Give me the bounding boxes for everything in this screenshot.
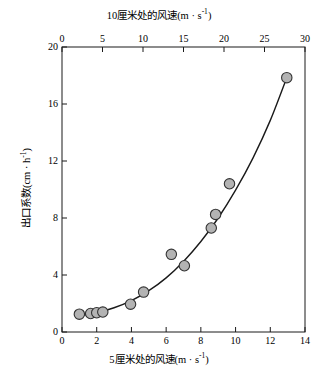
data-point-11 <box>282 72 292 82</box>
data-point-9 <box>210 209 220 219</box>
bottom-axis-tick-labels-14: 14 <box>292 335 318 346</box>
y-axis-tick-labels-16: 16 <box>36 98 58 109</box>
data-point-8 <box>206 223 216 233</box>
plot-frame <box>62 47 305 332</box>
data-point-5 <box>138 287 148 297</box>
top-axis-tick-labels-5: 5 <box>90 33 116 44</box>
scatter-chart: 10厘米处的风速(m · s-1) 5厘米处的风速(m · s-1) 出口系数(… <box>0 0 318 370</box>
data-point-6 <box>166 249 176 259</box>
data-point-3 <box>98 307 108 317</box>
y-axis-tick-labels-20: 20 <box>36 41 58 52</box>
fitted-trend-curve <box>79 78 286 316</box>
top-axis-tick-labels-30: 30 <box>292 33 318 44</box>
bottom-axis-tick-labels-8: 8 <box>188 335 214 346</box>
y-axis-tick-labels-12: 12 <box>36 155 58 166</box>
bottom-axis-tick-labels-10: 10 <box>223 335 249 346</box>
data-point-4 <box>125 299 135 309</box>
y-axis-tick-labels-8: 8 <box>36 212 58 223</box>
bottom-axis-tick-labels-12: 12 <box>257 335 283 346</box>
y-axis-tick-labels-0: 0 <box>36 326 58 337</box>
data-point-7 <box>179 261 189 271</box>
axis-ticks <box>62 47 305 332</box>
top-axis-tick-labels-10: 10 <box>130 33 156 44</box>
data-point-10 <box>224 179 234 189</box>
data-point-0 <box>74 309 84 319</box>
bottom-axis-tick-labels-4: 4 <box>118 335 144 346</box>
top-axis-tick-labels-20: 20 <box>211 33 237 44</box>
y-axis-tick-labels-4: 4 <box>36 269 58 280</box>
plot-svg <box>0 0 318 370</box>
bottom-axis-tick-labels-2: 2 <box>84 335 110 346</box>
bottom-axis-tick-labels-6: 6 <box>153 335 179 346</box>
data-points <box>74 72 292 319</box>
top-axis-tick-labels-25: 25 <box>252 33 278 44</box>
top-axis-tick-labels-15: 15 <box>171 33 197 44</box>
